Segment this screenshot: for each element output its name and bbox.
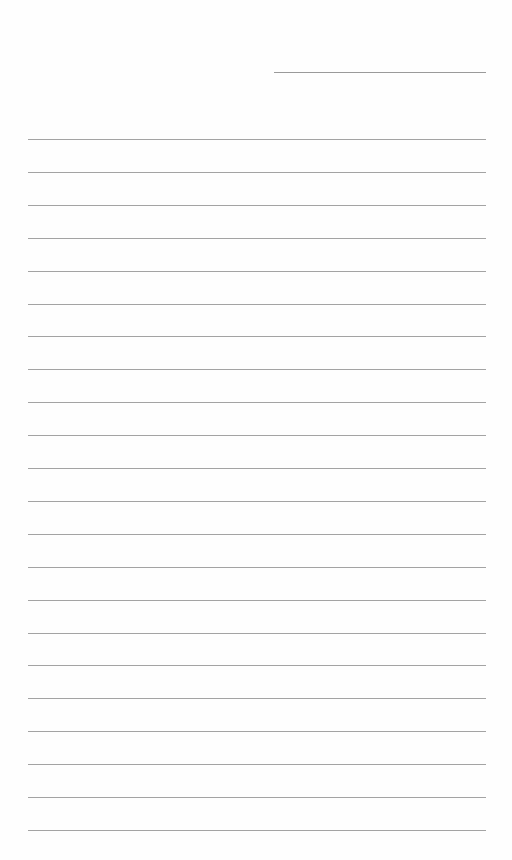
ruled-line [28, 435, 486, 436]
ruled-line [28, 600, 486, 601]
ruled-line [28, 830, 486, 831]
ruled-line [28, 797, 486, 798]
ruled-line [28, 369, 486, 370]
ruled-line [28, 205, 486, 206]
ruled-line [28, 731, 486, 732]
ruled-line [28, 238, 486, 239]
ruled-line [28, 501, 486, 502]
ruled-line [28, 698, 486, 699]
ruled-line [28, 633, 486, 634]
lined-paper-page [0, 0, 512, 860]
ruled-line [28, 468, 486, 469]
ruled-line [28, 402, 486, 403]
ruled-line [28, 764, 486, 765]
ruled-line [28, 336, 486, 337]
header-name-line [274, 72, 486, 73]
ruled-line [28, 665, 486, 666]
ruled-line [28, 172, 486, 173]
ruled-line [28, 567, 486, 568]
ruled-line [28, 271, 486, 272]
ruled-line [28, 304, 486, 305]
ruled-line [28, 534, 486, 535]
ruled-line [28, 139, 486, 140]
